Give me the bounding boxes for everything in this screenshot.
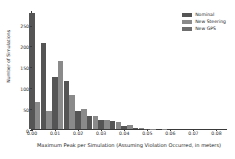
x-tick-mark <box>216 129 217 131</box>
legend-label: New GPS <box>195 27 216 32</box>
bar <box>64 81 70 129</box>
legend-label: Nominal <box>195 13 214 18</box>
x-axis-label: Maximum Peak per Simulation (Assuming Vi… <box>31 143 227 148</box>
x-tick-mark <box>78 129 79 131</box>
bar <box>58 61 64 129</box>
bar <box>35 102 41 129</box>
x-tick-label: 0.07 <box>188 132 198 137</box>
x-tick-label: 0.03 <box>96 132 106 137</box>
x-tick-mark <box>124 129 125 131</box>
bar <box>110 121 116 129</box>
bar <box>87 116 93 129</box>
y-tick-mark <box>30 67 32 68</box>
bar <box>41 43 47 129</box>
bar <box>139 128 145 129</box>
x-tick-mark <box>170 129 171 131</box>
legend-item: Nominal <box>182 12 226 18</box>
x-tick-label: 0.01 <box>50 132 60 137</box>
bar <box>116 122 122 129</box>
y-tick-mark <box>30 46 32 47</box>
bar <box>75 111 81 129</box>
x-tick-label: 0.02 <box>73 132 83 137</box>
legend-swatch <box>182 20 192 24</box>
y-tick-mark <box>30 109 32 110</box>
y-tick-mark <box>30 26 32 27</box>
chart-figure: 050100150200250 0.000.010.020.030.040.05… <box>0 0 235 159</box>
bar <box>133 128 139 129</box>
x-tick-label: 0.08 <box>211 132 221 137</box>
legend-item: New Steering <box>182 19 226 25</box>
legend-label: New Steering <box>195 20 226 25</box>
bar <box>127 125 133 129</box>
legend-item: New GPS <box>182 26 226 32</box>
y-axis-label: Number of Simulations <box>7 6 12 106</box>
x-tick-label: 0.06 <box>165 132 175 137</box>
bar <box>98 120 104 129</box>
bar <box>52 77 58 129</box>
x-tick-mark <box>55 129 56 131</box>
bar <box>81 109 87 129</box>
bar <box>93 116 99 129</box>
y-tick-mark <box>30 88 32 89</box>
bar <box>104 120 110 129</box>
x-tick-mark <box>32 129 33 131</box>
legend: NominalNew SteeringNew GPS <box>179 10 229 35</box>
x-tick-label: 0.05 <box>142 132 152 137</box>
legend-swatch <box>182 27 192 31</box>
legend-swatch <box>182 13 192 17</box>
x-tick-mark <box>147 129 148 131</box>
x-tick-mark <box>101 129 102 131</box>
x-tick-label: 0.00 <box>27 132 37 137</box>
bar <box>46 111 52 129</box>
x-tick-label: 0.04 <box>119 132 129 137</box>
x-tick-mark <box>193 129 194 131</box>
bar <box>69 95 75 129</box>
